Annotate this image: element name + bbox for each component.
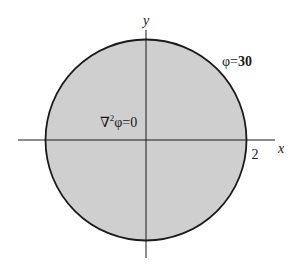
laplace-equation-label: ∇2φ=0 xyxy=(100,113,137,130)
nabla-operator-icon: ∇ xyxy=(100,115,110,130)
boundary-value: 30 xyxy=(238,54,252,69)
x-axis-label: x xyxy=(277,141,285,156)
boundary-condition-label: φ=30 xyxy=(222,54,252,69)
radius-label: 2 xyxy=(252,147,259,162)
equation-rest: φ=0 xyxy=(114,115,137,130)
phi-symbol: φ xyxy=(222,54,230,69)
y-axis-label: y xyxy=(141,13,150,28)
laplace-circle-diagram: y x 2 φ=30 ∇2φ=0 xyxy=(0,0,302,268)
equals-sign: = xyxy=(230,54,238,69)
